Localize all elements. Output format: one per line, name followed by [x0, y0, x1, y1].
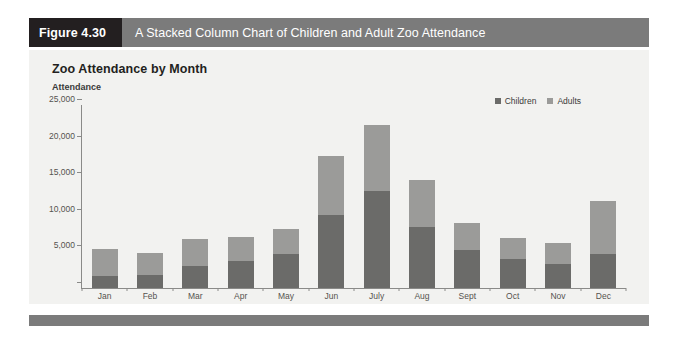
- x-axis-tick-label: Aug: [414, 291, 429, 301]
- bar-segment-children[interactable]: [364, 191, 390, 288]
- bar-segment-adults[interactable]: [273, 229, 299, 255]
- stacked-bar[interactable]: [318, 156, 344, 288]
- x-axis-tick-label: May: [278, 291, 294, 301]
- y-axis-tick: [77, 99, 82, 100]
- x-axis-tick: [399, 288, 400, 291]
- stacked-bar[interactable]: [137, 253, 163, 288]
- x-axis-tick: [490, 288, 491, 291]
- bar-segment-children[interactable]: [454, 250, 480, 288]
- stacked-bar[interactable]: [364, 125, 390, 288]
- x-axis-tick-label: Sept: [459, 291, 477, 301]
- x-axis-tick-label: Feb: [143, 291, 158, 301]
- stacked-bar[interactable]: [545, 243, 571, 288]
- x-axis-tick-label: Jan: [98, 291, 112, 301]
- x-axis-tick: [444, 288, 445, 291]
- x-axis-tick-label: Apr: [234, 291, 247, 301]
- bar-segment-children[interactable]: [137, 275, 163, 288]
- stacked-bar[interactable]: [409, 180, 435, 288]
- bar-segment-adults[interactable]: [364, 125, 390, 191]
- bar-segment-adults[interactable]: [228, 237, 254, 261]
- figure-caption-text: A Stacked Column Chart of Children and A…: [122, 18, 649, 47]
- y-axis-tick-label: 25,000: [49, 94, 75, 104]
- bar-segment-adults[interactable]: [137, 253, 163, 275]
- bar-segment-children[interactable]: [318, 215, 344, 288]
- stacked-bar[interactable]: [500, 238, 526, 288]
- bar-segment-adults[interactable]: [500, 238, 526, 258]
- bar-segment-children[interactable]: [182, 266, 208, 288]
- bar-segment-children[interactable]: [500, 259, 526, 288]
- stacked-bar[interactable]: [92, 249, 118, 288]
- figure-number-tag: Figure 4.30: [29, 18, 122, 47]
- x-axis-tick-label: Oct: [506, 291, 519, 301]
- legend-swatch-adults: [547, 98, 553, 104]
- bar-segment-adults[interactable]: [454, 223, 480, 250]
- y-axis-tick-label: 10,000: [49, 204, 75, 214]
- y-axis-tick-label: 5,000: [54, 240, 75, 250]
- x-axis-tick: [218, 288, 219, 291]
- x-axis-labels: JanFebMarAprMayJunJulyAugSeptOctNovDec: [82, 291, 626, 307]
- x-axis-tick: [127, 288, 128, 291]
- x-axis-tick-label: Nov: [550, 291, 565, 301]
- x-axis-tick-label: Jun: [324, 291, 338, 301]
- x-axis-tick: [172, 288, 173, 291]
- stacked-bar[interactable]: [590, 201, 616, 288]
- y-axis-title: Attendance: [52, 82, 101, 92]
- x-axis-tick-label: July: [369, 291, 384, 301]
- chart-title: Zoo Attendance by Month: [52, 62, 207, 76]
- bar-segment-children[interactable]: [409, 227, 435, 288]
- x-axis-tick: [308, 288, 309, 291]
- y-axis-tick-label: 15,000: [49, 167, 75, 177]
- bar-segment-children[interactable]: [590, 254, 616, 288]
- legend-swatch-children: [495, 98, 501, 104]
- x-axis-tick-label: Mar: [188, 291, 203, 301]
- stacked-bar[interactable]: [228, 237, 254, 288]
- figure-caption-bar: Figure 4.30 A Stacked Column Chart of Ch…: [29, 18, 649, 47]
- x-axis-tick: [354, 288, 355, 291]
- x-axis-tick: [580, 288, 581, 291]
- bar-series-container: [82, 105, 626, 288]
- stacked-bar[interactable]: [454, 223, 480, 288]
- bar-segment-adults[interactable]: [92, 249, 118, 275]
- bottom-decorative-band: [29, 315, 649, 326]
- bar-segment-children[interactable]: [273, 254, 299, 288]
- bar-segment-children[interactable]: [545, 264, 571, 288]
- stacked-bar[interactable]: [182, 239, 208, 288]
- x-axis-tick: [263, 288, 264, 291]
- stacked-bar[interactable]: [273, 229, 299, 288]
- bar-segment-adults[interactable]: [590, 201, 616, 254]
- x-axis-tick: [535, 288, 536, 291]
- chart-panel: Zoo Attendance by Month Attendance Child…: [29, 50, 649, 304]
- x-axis-tick: [626, 288, 627, 291]
- bar-segment-adults[interactable]: [318, 156, 344, 215]
- x-axis-tick-label: Dec: [596, 291, 611, 301]
- bar-segment-children[interactable]: [228, 261, 254, 288]
- figure-page: Figure 4.30 A Stacked Column Chart of Ch…: [0, 0, 675, 344]
- y-axis-labels: 5,00010,00015,00020,00025,000: [29, 99, 75, 289]
- bar-segment-adults[interactable]: [545, 243, 571, 263]
- bar-segment-adults[interactable]: [182, 239, 208, 266]
- x-axis-tick: [82, 288, 83, 291]
- y-axis-tick-label: 20,000: [49, 131, 75, 141]
- bar-segment-children[interactable]: [92, 276, 118, 288]
- bar-segment-adults[interactable]: [409, 180, 435, 228]
